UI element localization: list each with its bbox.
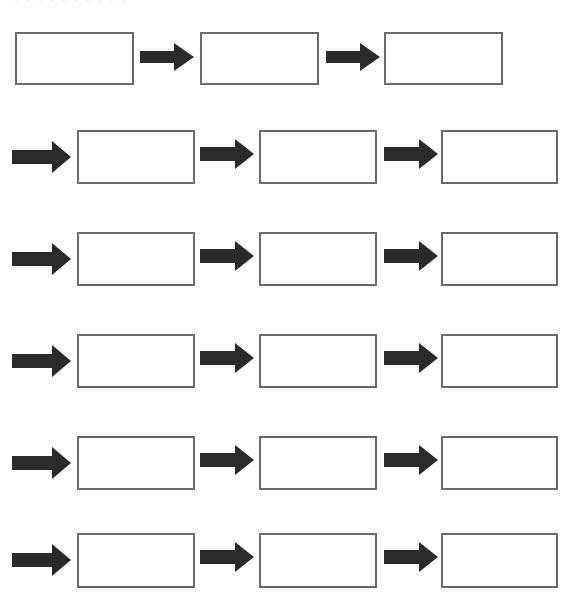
right-arrow-icon — [12, 345, 71, 377]
flow-box-r1-c2[interactable] — [200, 32, 319, 85]
right-arrow-icon — [384, 139, 438, 169]
right-arrow-icon — [12, 447, 71, 479]
flow-box-r5-c1[interactable] — [77, 436, 195, 490]
flow-box-r6-c2[interactable] — [259, 533, 377, 588]
right-arrow-icon — [12, 141, 71, 173]
right-arrow-icon — [384, 445, 438, 475]
right-arrow-icon — [384, 343, 438, 373]
right-arrow-icon — [200, 139, 254, 169]
flow-box-r6-c1[interactable] — [77, 533, 195, 588]
right-arrow-icon — [384, 542, 438, 572]
flow-box-r2-c1[interactable] — [77, 130, 195, 184]
flow-box-r1-c1[interactable] — [15, 32, 134, 85]
right-arrow-icon — [384, 241, 438, 271]
flow-box-r3-c1[interactable] — [77, 232, 195, 286]
flow-box-r4-c3[interactable] — [441, 334, 558, 388]
flow-box-r4-c1[interactable] — [77, 334, 195, 388]
flow-box-r2-c3[interactable] — [441, 130, 558, 184]
right-arrow-icon — [200, 542, 254, 572]
right-arrow-icon — [200, 241, 254, 271]
flow-box-r3-c3[interactable] — [441, 232, 558, 286]
right-arrow-icon — [140, 43, 194, 71]
right-arrow-icon — [12, 544, 71, 576]
right-arrow-icon — [200, 343, 254, 373]
flow-box-r1-c3[interactable] — [384, 32, 503, 85]
flow-box-r6-c3[interactable] — [441, 533, 558, 588]
flow-box-r3-c2[interactable] — [259, 232, 377, 286]
flow-box-r5-c3[interactable] — [441, 436, 558, 490]
flow-box-r4-c2[interactable] — [259, 334, 377, 388]
flow-box-r2-c2[interactable] — [259, 130, 377, 184]
flow-box-r5-c2[interactable] — [259, 436, 377, 490]
cutoff-heading-text: · · · · · · · · · · — [14, 0, 169, 3]
right-arrow-icon — [200, 445, 254, 475]
right-arrow-icon — [12, 243, 71, 275]
right-arrow-icon — [326, 43, 380, 71]
